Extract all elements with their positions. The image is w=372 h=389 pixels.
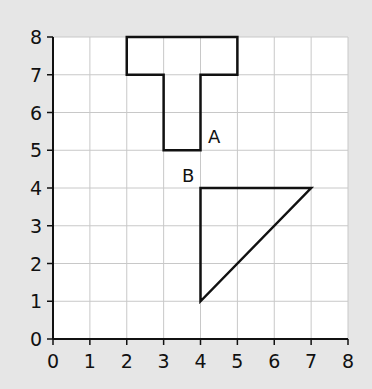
y-tick-label: 3 — [30, 215, 42, 237]
x-tick-label: 1 — [84, 350, 96, 372]
x-tick-label: 5 — [231, 350, 243, 372]
x-tick-label: 0 — [47, 350, 59, 372]
x-tick-label: 8 — [342, 350, 354, 372]
y-tick-label: 7 — [30, 64, 42, 86]
x-tick-label: 7 — [305, 350, 317, 372]
x-axis-tick-labels: 012345678 — [47, 350, 354, 372]
y-tick-label: 8 — [30, 26, 42, 48]
coordinate-grid-diagram: 012345678 012345678 AB — [0, 0, 372, 389]
x-tick-label: 3 — [158, 350, 170, 372]
y-tick-label: 6 — [30, 102, 42, 124]
shape-label-b: B — [182, 165, 194, 186]
y-axis-tick-labels: 012345678 — [30, 26, 42, 350]
y-tick-label: 4 — [30, 177, 42, 199]
x-tick-label: 6 — [268, 350, 280, 372]
y-tick-label: 1 — [30, 290, 42, 312]
y-tick-label: 2 — [30, 253, 42, 275]
y-tick-label: 5 — [30, 139, 42, 161]
shape-label-a: A — [208, 126, 221, 147]
x-tick-label: 2 — [121, 350, 133, 372]
y-tick-label: 0 — [30, 328, 42, 350]
x-tick-label: 4 — [194, 350, 206, 372]
